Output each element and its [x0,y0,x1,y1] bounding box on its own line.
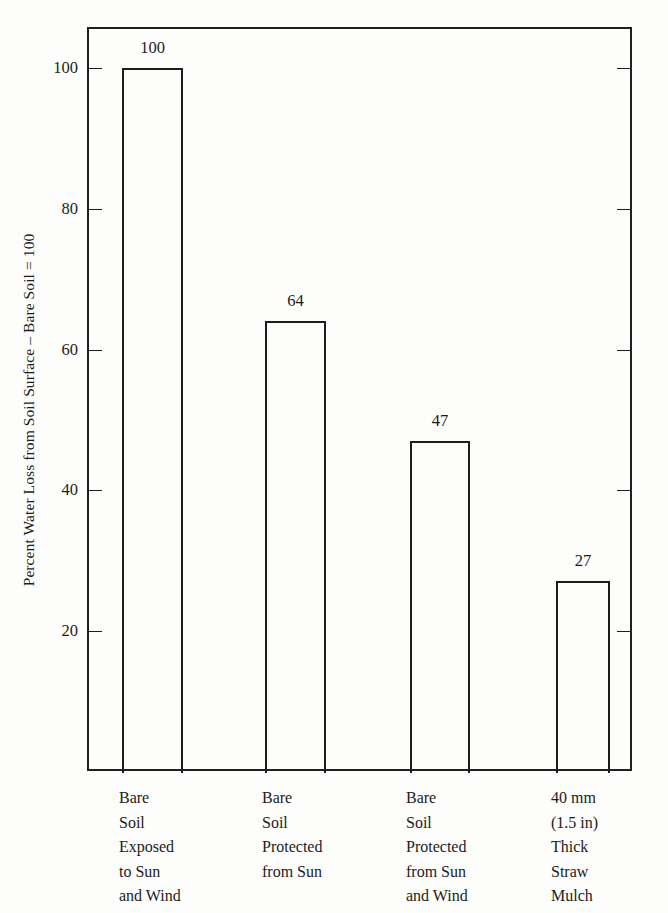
bar-bare-soil-protected-from-sun-and-wind[interactable] [410,441,470,773]
y-tick-label-60: 60 [16,342,78,359]
y-tick-label-20: 20 [16,623,78,640]
bar-bare-soil-exposed[interactable] [122,68,183,773]
y-tick-40: 40 [0,482,78,498]
y-tick-80: 80 [0,201,78,217]
y-tick-100: 100 [0,60,78,76]
bar-bare-soil-protected-from-sun[interactable] [265,321,326,773]
bar-chart: Percent Water Loss from Soil Surface – B… [0,0,668,913]
x-category-label-3: 40 mm (1.5 in) Thick Straw Mulch [551,786,598,909]
bar-value-label-2: 47 [390,413,490,430]
bar-value-label-3: 27 [533,553,633,570]
bar-straw-mulch[interactable] [556,581,610,773]
y-tick-60: 60 [0,342,78,358]
bar-value-label-1: 64 [245,293,346,310]
x-category-label-1: Bare Soil Protected from Sun [262,786,322,884]
x-category-label-2: Bare Soil Protected from Sun and Wind [406,786,468,909]
bar-value-label-0: 100 [102,40,203,57]
y-tick-20: 20 [0,623,78,639]
y-tick-label-80: 80 [16,201,78,218]
y-tick-label-40: 40 [16,482,78,499]
y-tick-label-100: 100 [16,60,78,77]
y-axis-title: Percent Water Loss from Soil Surface – B… [12,30,46,790]
x-category-label-0: Bare Soil Exposed to Sun and Wind [119,786,181,909]
